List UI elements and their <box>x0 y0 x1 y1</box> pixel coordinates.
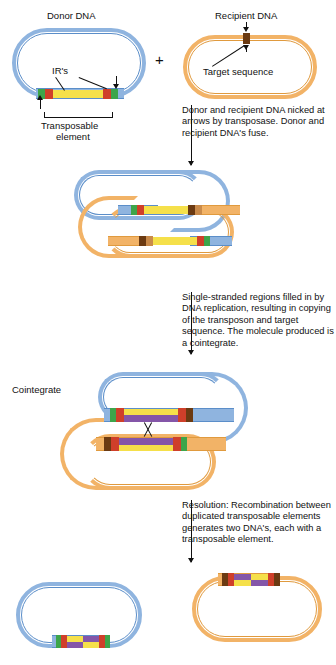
intermediate-upper-orange-strand <box>196 205 240 215</box>
intermediate-lower-target-tan <box>146 236 153 246</box>
crossover-x-mark <box>140 421 156 438</box>
donor-transposon-body <box>53 90 103 98</box>
donor-nick-arrow-right-head <box>113 84 119 89</box>
intermediate-lower-ir-green <box>204 236 210 246</box>
irs-label: IR's <box>52 65 68 76</box>
intermediate-lower-target-brown <box>139 236 146 246</box>
donor-plasmid-inner-ring <box>17 33 141 93</box>
recipient-dna-label: Recipient DNA <box>215 10 277 21</box>
recipient-target-sequence-block <box>243 33 250 44</box>
recipient-nick-arrow-top-head <box>243 27 249 32</box>
cointegrate-orange-left-arm <box>60 418 118 490</box>
cointegrate-lower-ir-left-red <box>111 437 119 451</box>
donor-nick-arrow-left-shaft <box>40 99 41 109</box>
process-arrow-3-head <box>188 558 194 563</box>
cointegrate-label: Cointegrate <box>12 384 61 395</box>
target-sequence-label: Target sequence <box>203 66 273 77</box>
process-arrow-1-head <box>188 161 194 166</box>
cointegrate-lower-transposon-yellow <box>119 445 173 451</box>
donor-dna-label: Donor DNA <box>47 10 96 21</box>
product-recipient-ir-right-brown <box>274 573 280 586</box>
cointegrate-upper-ir-right-red <box>178 408 186 422</box>
cointegrate-lower-ir-left-brown <box>104 437 111 451</box>
plus-sign: + <box>155 52 164 67</box>
cointegrate-upper-ir-right-brown <box>186 408 193 422</box>
intermediate-lower-ir-red <box>197 236 204 246</box>
product-recipient-transposon-purple-b <box>251 580 268 586</box>
intermediate-lower-transposon <box>153 237 197 245</box>
intermediate-upper-ir-red <box>137 205 144 215</box>
donor-ir-right-green <box>111 89 118 99</box>
cointegrate-lower-ir-right-red <box>173 437 181 451</box>
donor-ir-right-red <box>103 89 111 99</box>
intermediate-upper-transposon <box>144 206 188 214</box>
caption-step-1: Donor and recipient DNA nicked at arrows… <box>182 105 332 139</box>
transposable-element-bracket <box>44 112 113 118</box>
cointegrate-upper-ir-left-red <box>116 408 124 422</box>
donor-ir-left-red <box>45 89 53 99</box>
cointegrate-lower-transposon-purple <box>119 438 173 445</box>
donor-nick-arrow-left-head <box>37 95 43 100</box>
product-donor-transposon-yellow-b <box>83 642 99 648</box>
transposable-element-label-line1: Transposable <box>41 120 98 131</box>
process-arrow-2-head <box>188 350 194 355</box>
transposable-element-label-line2: element <box>56 131 90 142</box>
caption-step-2: Single-stranded regions filled in by DNA… <box>182 292 334 349</box>
cointegrate-lower-ir-right-green <box>181 437 187 451</box>
caption-step-3: Resolution: Recombination between duplic… <box>182 500 334 546</box>
product-donor-transposon-purple-a <box>67 642 83 648</box>
intermediate-upper-target-brown <box>188 205 195 215</box>
intermediate-upper-target-tan <box>195 205 202 215</box>
product-recipient-transposon-yellow-a <box>234 580 251 586</box>
product-recipient-inner-ring <box>197 581 317 637</box>
product-donor-ir-right-green <box>105 635 110 648</box>
